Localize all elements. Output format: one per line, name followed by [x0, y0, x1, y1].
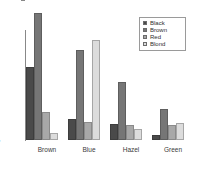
- x-axis-label: Hazel: [110, 146, 152, 158]
- y-axis-tick: 40: [0, 97, 25, 98]
- legend-swatch-icon: [143, 35, 147, 39]
- bar: [160, 109, 168, 140]
- bar: [168, 125, 176, 140]
- legend-swatch-icon: [143, 28, 147, 32]
- bar-group: [26, 12, 68, 140]
- y-axis-tick: 0: [0, 140, 25, 141]
- bar-chart: 020406080100 BrownBlueHazelGreen BlackBr…: [0, 0, 199, 170]
- bar: [26, 67, 34, 140]
- legend-swatch-icon: [143, 42, 147, 46]
- x-axis-label: Brown: [26, 146, 68, 158]
- bar: [118, 82, 126, 140]
- bar: [92, 40, 100, 140]
- legend-item-label: Black: [150, 20, 165, 26]
- x-axis-label: Green: [152, 146, 194, 158]
- x-axis-labels: BrownBlueHazelGreen: [26, 146, 194, 158]
- bar: [176, 123, 184, 140]
- legend-item-label: Blond: [150, 41, 165, 47]
- bar: [134, 129, 142, 140]
- bar: [68, 119, 76, 140]
- y-axis-tick: 60: [0, 76, 25, 77]
- bar: [110, 124, 118, 140]
- y-axis-tick: 80: [0, 55, 25, 56]
- bar: [126, 125, 134, 140]
- legend-item: Red: [143, 34, 182, 41]
- bar: [50, 133, 58, 140]
- legend-item-label: Brown: [150, 27, 167, 33]
- legend-item: Brown: [143, 27, 182, 34]
- x-axis-label: Blue: [68, 146, 110, 158]
- y-axis-tick: 100: [0, 33, 25, 34]
- bar: [42, 112, 50, 140]
- legend-item-label: Red: [150, 34, 161, 40]
- bar: [76, 50, 84, 140]
- y-axis-tick: 20: [0, 119, 25, 120]
- y-axis-tick-mark: [21, 0, 25, 1]
- bar: [84, 122, 92, 140]
- bar-group: [68, 12, 110, 140]
- legend-swatch-icon: [143, 21, 147, 25]
- bar: [34, 13, 42, 140]
- chart-legend: BlackBrownRedBlond: [139, 17, 186, 51]
- bar: [152, 135, 160, 140]
- legend-item: Blond: [143, 41, 182, 48]
- legend-item: Black: [143, 20, 182, 27]
